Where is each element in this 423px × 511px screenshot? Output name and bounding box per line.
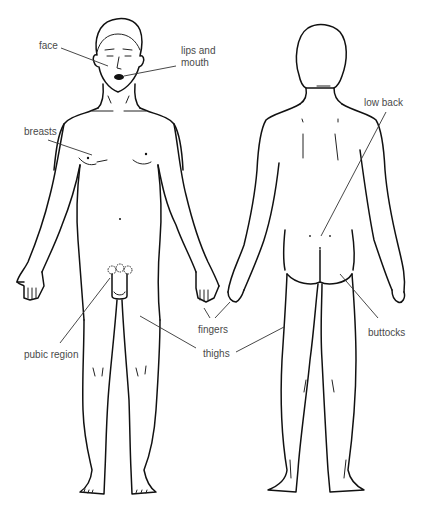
front-head	[93, 18, 144, 92]
leader-thighs-front	[140, 316, 196, 348]
label-low-back: low back	[364, 97, 403, 109]
leader-face	[61, 48, 108, 66]
leader-pubic	[60, 278, 110, 343]
front-legs	[80, 300, 160, 494]
leader-low-back	[321, 112, 386, 236]
label-face: face	[39, 40, 58, 52]
label-fingers: fingers	[198, 324, 228, 336]
front-torso	[54, 108, 183, 170]
leader-fingers-back	[215, 302, 230, 318]
label-buttocks: buttocks	[368, 327, 405, 339]
pubic-hair	[108, 264, 132, 274]
back-head	[296, 25, 346, 88]
leader-fingers-front	[204, 308, 210, 318]
back-legs	[268, 274, 364, 492]
leader-buttocks	[340, 274, 378, 318]
leader-lips	[124, 66, 176, 76]
front-mouth	[114, 74, 124, 80]
label-thighs: thighs	[203, 348, 230, 360]
back-figure	[228, 25, 405, 492]
leader-thighs-back	[236, 327, 284, 352]
back-buttocks	[287, 250, 352, 284]
leader-breasts	[48, 140, 92, 155]
label-breasts: breasts	[24, 126, 57, 138]
front-figure	[17, 18, 219, 494]
label-pubic-region: pubic region	[24, 349, 78, 361]
body-diagram	[0, 0, 423, 511]
label-lips-and-mouth: lips and mouth	[181, 45, 215, 69]
